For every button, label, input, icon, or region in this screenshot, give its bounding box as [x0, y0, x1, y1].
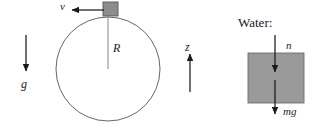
physics-figure: v R g z Water: n mg [0, 0, 312, 130]
velocity-label: v [60, 1, 65, 12]
normal-force-label: n [286, 40, 292, 51]
gravity-label: g [21, 78, 27, 90]
weight-label: mg [283, 106, 296, 117]
block-on-loop [103, 2, 118, 16]
water-heading: Water: [238, 16, 272, 29]
radius-label: R [113, 42, 120, 54]
z-axis-label: z [185, 41, 190, 53]
water-block-rect [248, 53, 304, 103]
